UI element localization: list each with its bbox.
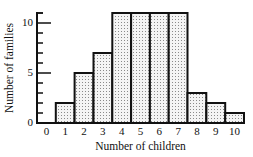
bar-8 bbox=[188, 93, 207, 123]
bar-10 bbox=[225, 113, 244, 123]
x-tick-label: 1 bbox=[56, 125, 74, 137]
x-tick-label: 5 bbox=[132, 125, 150, 137]
y-axis-label-text: Number of families bbox=[3, 23, 15, 113]
bar-5 bbox=[131, 13, 150, 123]
histogram-chart: Number of families Number of children 05… bbox=[0, 0, 253, 157]
bar-4 bbox=[112, 13, 131, 123]
y-tick-label: 0 bbox=[19, 116, 33, 128]
y-tick-label: 5 bbox=[19, 66, 33, 78]
x-tick-label: 8 bbox=[188, 125, 206, 137]
x-tick-label: 7 bbox=[169, 125, 187, 137]
x-tick-label: 6 bbox=[150, 125, 168, 137]
x-tick-label: 9 bbox=[207, 125, 225, 137]
x-tick-label: 10 bbox=[226, 125, 244, 137]
x-axis-label: Number of children bbox=[37, 140, 244, 152]
bar-3 bbox=[94, 53, 113, 123]
bar-1 bbox=[56, 103, 75, 123]
bar-7 bbox=[169, 13, 188, 123]
x-tick-label: 0 bbox=[37, 125, 55, 137]
y-tick-label: 10 bbox=[19, 16, 33, 28]
y-axis-label: Number of families bbox=[2, 16, 16, 120]
x-tick-label: 4 bbox=[113, 125, 131, 137]
x-tick-label: 3 bbox=[94, 125, 112, 137]
bar-9 bbox=[206, 103, 225, 123]
bar-2 bbox=[75, 73, 94, 123]
x-tick-label: 2 bbox=[75, 125, 93, 137]
bar-6 bbox=[150, 13, 169, 123]
